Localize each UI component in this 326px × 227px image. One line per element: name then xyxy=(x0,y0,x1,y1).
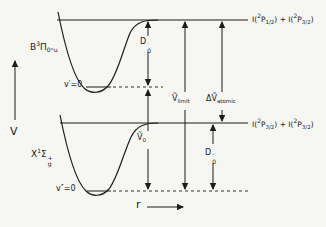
nu0-subscript: 0 xyxy=(142,137,146,143)
v-double-prime-0-label: v″=0 xyxy=(56,185,76,193)
nu-limit-label: Ṽlimit xyxy=(172,95,190,105)
v-axis-label: V xyxy=(10,126,18,137)
upper-limit-sub2: 3/2 xyxy=(302,19,311,25)
r-axis-label-text: r xyxy=(136,198,141,211)
nu0-label: Ṽ0 xyxy=(137,134,146,144)
lower-limit-close: ) xyxy=(311,120,314,129)
delta-nu-atomic-subscript: atomic xyxy=(217,98,236,104)
delta-nu-atomic-symbol: ΔṼ xyxy=(206,94,217,103)
d0-double-prime-zero: 0 xyxy=(212,159,216,165)
potential-energy-diagram: V r B3Π0⁺u X1Σ+g v′=0 v″=0 D′0 Ṽ0 Ṽlimit… xyxy=(0,0,326,227)
lower-limit-plus: ) + I( xyxy=(274,120,293,129)
x-state-g: g xyxy=(48,161,53,167)
d0-double-prime-label: D″0 xyxy=(205,149,216,166)
nu-limit-subscript: limit xyxy=(177,98,189,104)
x-state-term-letter: Σ xyxy=(41,149,47,159)
d0-prime-zero: 0 xyxy=(147,48,151,54)
diagram-canvas xyxy=(0,0,326,227)
d0-prime-stack: ′0 xyxy=(147,42,151,55)
v-prime-0-label: v′=0 xyxy=(64,81,82,89)
v-double-prime-0-text: v″=0 xyxy=(56,184,76,193)
x-state-label: X1Σ+g xyxy=(31,148,53,168)
lower-limit-label: I(2P3/2) + I(2P3/2) xyxy=(252,118,314,131)
d0-prime-label: D′0 xyxy=(140,38,151,55)
x-state-gplus-stack: +g xyxy=(48,155,53,168)
b-state-subscript: 0⁺u xyxy=(47,46,58,53)
upper-limit-label: I(2P1/2) + I(2P3/2) xyxy=(252,13,314,26)
lower-limit-sub2: 3/2 xyxy=(302,124,311,130)
r-axis-label: r xyxy=(136,199,141,210)
v-axis-label-text: V xyxy=(10,125,18,138)
b-state-label: B3Π0⁺u xyxy=(30,41,58,53)
b-state-term-letter: Π xyxy=(40,42,47,52)
delta-nu-atomic-label: ΔṼatomic xyxy=(206,95,236,105)
d0-prime-d: D xyxy=(140,37,146,46)
d0-double-prime-stack: ″0 xyxy=(212,153,216,166)
d0-double-prime-d: D xyxy=(205,148,211,157)
upper-limit-close: ) xyxy=(311,15,314,24)
upper-limit-plus: ) + I( xyxy=(274,15,293,24)
v-prime-0-text: v′=0 xyxy=(64,80,82,89)
